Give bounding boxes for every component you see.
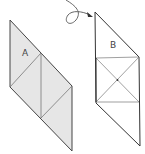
fold-diagram: A B: [0, 0, 145, 154]
panel-a-label: A: [22, 48, 29, 58]
panel-b: B: [95, 12, 140, 146]
panel-b-label: B: [110, 40, 116, 50]
diagram-canvas: A B: [0, 0, 145, 154]
flip-arrow-icon: [66, 0, 93, 23]
panel-a: A: [10, 20, 72, 151]
